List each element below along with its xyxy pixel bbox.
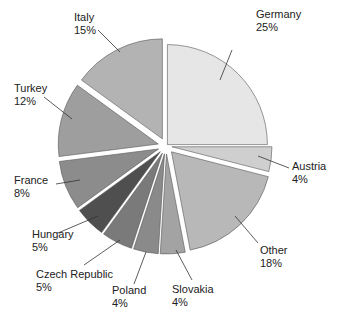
leader-line — [235, 216, 258, 243]
slice-name: Czech Republic — [36, 268, 113, 281]
leader-line — [84, 240, 120, 265]
slice-name: Germany — [256, 8, 301, 21]
slice-label: Other18% — [260, 244, 288, 270]
slice-name: Austria — [292, 160, 326, 173]
slice-name: France — [14, 174, 48, 187]
slice-percent: 12% — [14, 95, 47, 108]
slice-name: Turkey — [14, 82, 47, 95]
slice-label: Poland4% — [112, 284, 146, 310]
slice-percent: 5% — [32, 241, 74, 254]
slice-percent: 4% — [172, 296, 214, 309]
slice-name: Hungary — [32, 228, 74, 241]
slice-label: Hungary5% — [32, 228, 74, 254]
slice-label: Slovakia4% — [172, 283, 214, 309]
slice-label: Germany25% — [256, 8, 301, 34]
slice-percent: 25% — [256, 21, 301, 34]
slice-label: Czech Republic5% — [36, 268, 113, 294]
slice-percent: 15% — [74, 24, 96, 37]
slice-percent: 4% — [292, 173, 326, 186]
slice-name: Other — [260, 244, 288, 257]
slice-percent: 5% — [36, 281, 113, 294]
slice-germany — [167, 45, 267, 145]
leader-line — [98, 30, 120, 52]
slice-percent: 18% — [260, 257, 288, 270]
slice-label: Austria4% — [292, 160, 326, 186]
slice-label: Turkey12% — [14, 82, 47, 108]
slice-name: Slovakia — [172, 283, 214, 296]
slice-label: France8% — [14, 174, 48, 200]
leader-line — [176, 250, 192, 280]
slice-name: Italy — [74, 11, 96, 24]
slice-name: Poland — [112, 284, 146, 297]
leader-line — [134, 252, 146, 284]
slice-label: Italy15% — [74, 11, 96, 37]
slice-percent: 8% — [14, 187, 48, 200]
slice-percent: 4% — [112, 297, 146, 310]
